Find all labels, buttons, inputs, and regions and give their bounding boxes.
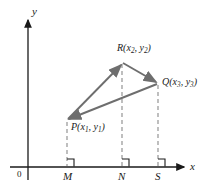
right-angle-mark-n — [122, 159, 129, 167]
point-label-p: P(x1, y1) — [71, 122, 105, 134]
triangle-edge-pr — [68, 65, 121, 119]
point-label-r: R(x2, y2) — [117, 43, 151, 55]
point-label-r-close: ) — [148, 42, 151, 53]
right-angle-mark-m — [67, 159, 74, 167]
right-angle-mark-s — [158, 159, 165, 167]
triangle-edge-qp — [69, 84, 157, 119]
point-label-q: Q(x3, y3) — [162, 77, 197, 89]
foot-label-n: N — [118, 171, 125, 182]
x-axis-label: x — [190, 161, 195, 172]
y-axis-label: y — [32, 6, 37, 17]
geometry-figure: y x 0 M N S P(x1, y1) R(x2, y2) Q(x3, y3… — [0, 0, 209, 192]
point-label-q-close: ) — [194, 76, 197, 87]
foot-label-s: S — [155, 171, 161, 182]
foot-label-m: M — [63, 171, 72, 182]
point-label-p-close: ) — [102, 121, 105, 132]
origin-label: 0 — [17, 170, 22, 179]
triangle-edge-rq — [123, 63, 156, 82]
figure-canvas — [0, 0, 209, 192]
